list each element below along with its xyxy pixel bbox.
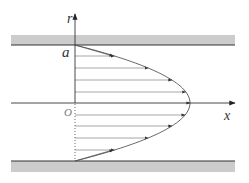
x-axis-label: x [223, 108, 231, 123]
r-axis-label: r [67, 11, 73, 26]
a-label: a [62, 44, 70, 60]
bottom-wall [11, 161, 235, 172]
top-slant-arrow [75, 45, 113, 56]
top-wall [11, 35, 235, 45]
bottom-slant-arrow [75, 150, 113, 161]
flow-profile-diagram: r a O x [0, 0, 249, 183]
origin-label: O [64, 106, 72, 118]
